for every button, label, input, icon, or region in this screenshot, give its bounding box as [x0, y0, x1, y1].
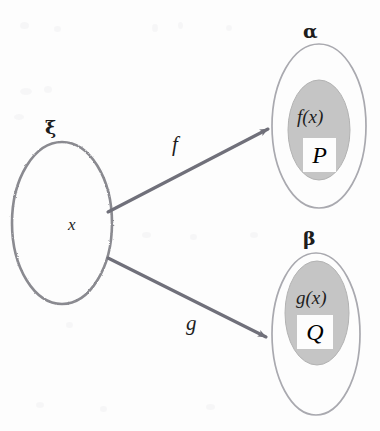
highlight-box-q: Q: [297, 315, 333, 349]
highlight-box-p: P: [303, 138, 336, 172]
domain-element-label-x: x: [68, 216, 76, 233]
image-expression-fx: f(x): [297, 107, 323, 126]
subset-ellipse-gx: [285, 261, 349, 365]
highlight-label-p: P: [312, 142, 327, 169]
map-label-g: g: [186, 313, 197, 334]
codomain-set-label-alpha: α: [303, 22, 318, 41]
domain-set-label-xi: ξ: [45, 118, 56, 137]
image-expression-gx: g(x): [296, 288, 327, 307]
codomain-set-label-beta: β: [303, 229, 316, 248]
map-arrow-f: [108, 129, 268, 212]
map-label-f: f: [172, 134, 178, 155]
diagram-graphics: [0, 0, 380, 431]
domain-ellipse-xi: [12, 142, 112, 304]
highlight-label-q: Q: [306, 319, 323, 346]
diagram-canvas: ξ x α f(x) P β g(x) Q f g: [0, 0, 380, 431]
